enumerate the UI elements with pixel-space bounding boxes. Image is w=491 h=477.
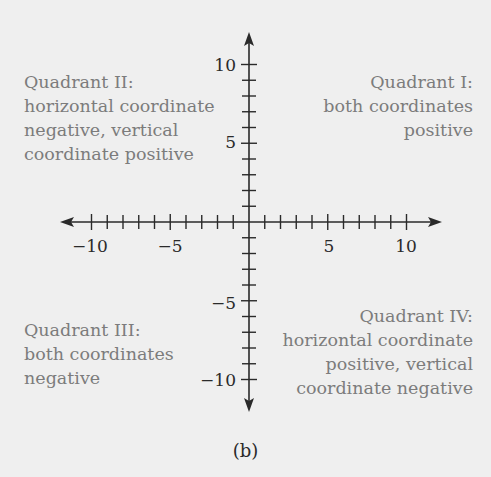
quadrant-ii-label: Quadrant II: horizontal coordinate negat… — [24, 70, 215, 166]
x-tick-label: 10 — [395, 236, 417, 256]
quadrant-i-label: Quadrant I: both coordinates positive — [323, 70, 473, 142]
figure-caption: (b) — [0, 440, 491, 461]
y-tick-label: −5 — [211, 293, 236, 313]
label-line: coordinate positive — [24, 142, 215, 166]
label-line: negative — [24, 366, 174, 390]
label-line: Quadrant I: — [323, 70, 473, 94]
quadrant-iii-label: Quadrant III: both coordinates negative — [24, 318, 174, 390]
y-tick-label: 10 — [214, 55, 236, 75]
label-line: Quadrant IV: — [282, 304, 473, 328]
label-line: both coordinates — [323, 94, 473, 118]
label-line: horizontal coordinate — [24, 94, 215, 118]
label-line: positive — [323, 118, 473, 142]
y-tick-label: −10 — [200, 370, 236, 390]
label-line: Quadrant II: — [24, 70, 215, 94]
label-line: horizontal coordinate — [282, 328, 473, 352]
label-line: negative, vertical — [24, 118, 215, 142]
label-line: Quadrant III: — [24, 318, 174, 342]
quadrant-iv-label: Quadrant IV: horizontal coordinate posit… — [282, 304, 473, 400]
x-tick-label: 5 — [324, 236, 335, 256]
x-tick-label: −5 — [157, 236, 182, 256]
label-line: positive, vertical — [282, 352, 473, 376]
x-tick-label: −10 — [72, 236, 108, 256]
label-line: coordinate negative — [282, 376, 473, 400]
label-line: both coordinates — [24, 342, 174, 366]
y-tick-label: 5 — [225, 132, 236, 152]
